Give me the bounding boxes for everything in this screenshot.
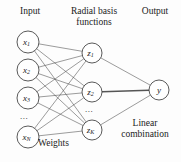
layer-header-input: Input [6, 6, 54, 17]
node-label-y: y [156, 85, 161, 95]
layer-header-hidden-line2: functions [76, 17, 111, 27]
node-subscript-x2: 2 [27, 69, 30, 75]
edge-x2-to-zK [36, 78, 85, 124]
layer-header-output: Output [132, 6, 178, 17]
rbf-network-diagram: x1x2x3xNz1z2zKy Input Radial basis funct… [0, 0, 181, 162]
layer-header-hidden-line1: Radial basis [71, 6, 117, 16]
linear-combination-line1: Linear [133, 118, 158, 128]
edge-x2-to-z1 [39, 56, 83, 68]
edge-x3-to-z2 [39, 93, 82, 97]
layer-header-hidden: Radial basis functions [58, 6, 130, 28]
weight-edges-group [34, 44, 86, 136]
node-subscript-x1: 1 [27, 41, 30, 47]
edge-z2-to-y [102, 90, 149, 91]
node-subscript-x3: 3 [26, 97, 30, 103]
weights-annotation: Weights [38, 138, 69, 149]
linear-combination-annotation: Linear combination [112, 118, 178, 140]
linear-combination-line2: combination [121, 129, 169, 139]
edge-x1-to-z1 [39, 44, 82, 51]
input-layer-ellipsis: ... [20, 111, 28, 121]
edge-z1-to-y [101, 58, 150, 85]
edge-xN-to-zK [39, 131, 82, 136]
hidden-layer-ellipsis: ... [85, 104, 93, 114]
linear-combination-edges-group [101, 58, 151, 125]
edge-xN-to-z2 [37, 98, 84, 131]
node-subscript-z1: 1 [91, 52, 94, 58]
node-subscript-z2: 2 [91, 91, 94, 97]
edge-xN-to-z1 [35, 61, 86, 128]
edge-x1-to-z2 [37, 49, 84, 86]
